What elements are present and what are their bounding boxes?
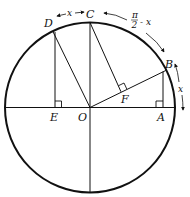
radius-od bbox=[53, 31, 90, 107]
right-angle-e bbox=[55, 101, 62, 108]
arc-label-ba: x bbox=[178, 84, 183, 94]
arrow-cb-lower bbox=[146, 33, 164, 52]
arrow-dc-right bbox=[75, 12, 84, 13]
arrow-cb-upper bbox=[104, 13, 127, 20]
label-b: B bbox=[164, 58, 173, 71]
label-f: F bbox=[120, 93, 129, 106]
label-o: O bbox=[78, 111, 87, 124]
arc-label-cb-den: 2 bbox=[131, 20, 138, 30]
arrow-ba-lower bbox=[182, 95, 183, 110]
arrow-ba-upper bbox=[175, 64, 179, 82]
diagram-canvas: D C B F E O A x π 2 - x x bbox=[0, 0, 190, 197]
arc-label-cb-num: π bbox=[131, 10, 139, 20]
label-d: D bbox=[43, 17, 53, 30]
arrow-dc-left bbox=[57, 14, 66, 16]
label-a: A bbox=[156, 111, 165, 124]
segment-cf bbox=[90, 23, 121, 92]
label-e: E bbox=[49, 111, 58, 124]
arc-label-cb-suffix: - x bbox=[140, 17, 151, 27]
arc-label-dc: x bbox=[67, 8, 72, 18]
right-angle-a bbox=[156, 101, 163, 108]
label-c: C bbox=[86, 8, 95, 21]
